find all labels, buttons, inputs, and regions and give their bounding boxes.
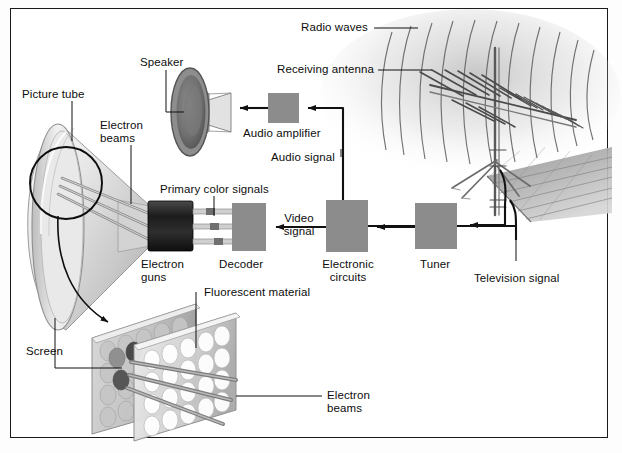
label-television-signal: Television signal [474, 272, 559, 285]
figure-canvas: Picture tube Electron beams Speaker Radi… [0, 0, 622, 453]
label-audio-amplifier: Audio amplifier [243, 127, 321, 140]
label-picture-tube: Picture tube [22, 88, 85, 101]
label-electron-beams-top: Electron beams [100, 119, 143, 144]
label-fluorescent-material: Fluorescent material [204, 286, 310, 299]
label-speaker: Speaker [140, 56, 184, 69]
label-primary-color-signals: Primary color signals [160, 183, 269, 196]
label-decoder: Decoder [219, 258, 263, 271]
label-tuner: Tuner [420, 258, 450, 271]
label-electron-beams-bottom: Electron beams [327, 389, 370, 414]
label-audio-signal: Audio signal [271, 151, 335, 164]
electron-guns [148, 201, 233, 251]
block-audio-amplifier[interactable] [268, 93, 299, 123]
screen-detail [92, 304, 240, 441]
block-electronic-circuits[interactable] [326, 200, 368, 252]
label-electronic-circuits: Electronic circuits [313, 258, 383, 283]
block-decoder[interactable] [232, 203, 266, 251]
picture-tube [28, 124, 150, 330]
label-radio-waves: Radio waves [301, 21, 368, 34]
label-electron-guns: Electron guns [141, 258, 184, 283]
label-video-signal: Video signal [276, 212, 322, 237]
label-screen: Screen [26, 345, 63, 358]
label-receiving-antenna: Receiving antenna [277, 63, 374, 76]
block-tuner[interactable] [415, 203, 457, 249]
